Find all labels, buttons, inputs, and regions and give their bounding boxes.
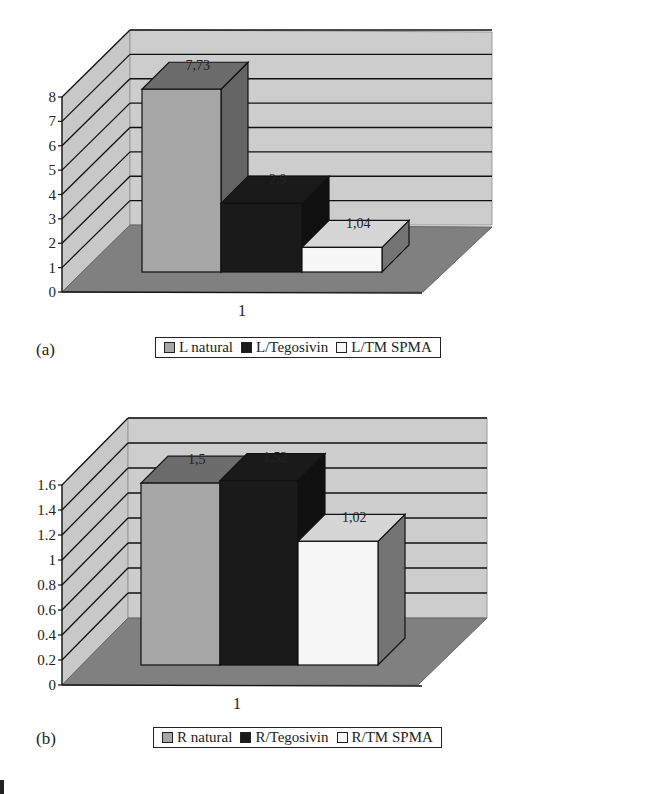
svg-text:1.4: 1.4 (37, 502, 56, 518)
legend-swatch-icon (162, 732, 173, 743)
legend-swatch-icon (241, 342, 252, 353)
legend-label: R/TM SPMA (352, 729, 433, 746)
svg-text:1: 1 (49, 552, 57, 568)
data-label: 7,73 (185, 58, 210, 73)
panel-label-b: (b) (36, 729, 56, 749)
svg-text:0.4: 0.4 (37, 627, 56, 643)
data-label: 2,9 (269, 172, 287, 187)
panel-label-a: (a) (36, 340, 55, 360)
svg-text:0: 0 (49, 677, 57, 693)
svg-text:1.2: 1.2 (37, 527, 56, 543)
svg-text:1: 1 (49, 260, 57, 276)
legend-swatch-icon (240, 732, 251, 743)
legend-item-l-natural: L natural (164, 339, 233, 356)
legend-label: L natural (179, 339, 233, 356)
svg-text:2: 2 (49, 235, 57, 251)
legend-item-l-tegosivin: L/Tegosivin (241, 339, 328, 356)
legend-swatch-icon (337, 732, 348, 743)
chart-panel-a: 7,732,91,04 012345678 1 (a) L natural L/… (0, 0, 652, 380)
svg-text:6: 6 (49, 138, 57, 154)
legend-label: L/TM SPMA (351, 339, 431, 356)
legend-item-r-natural: R natural (162, 729, 232, 746)
svg-text:4: 4 (49, 187, 57, 203)
svg-text:0.6: 0.6 (37, 602, 56, 618)
chart-a-legend: L natural L/Tegosivin L/TM SPMA (155, 337, 441, 358)
svg-text:8: 8 (49, 89, 57, 105)
legend-swatch-icon (336, 342, 347, 353)
svg-text:0.8: 0.8 (37, 577, 56, 593)
legend-label: R natural (177, 729, 232, 746)
bar-r-tm-spma (298, 514, 405, 665)
legend-item-l-tm-spma: L/TM SPMA (336, 339, 431, 356)
svg-text:0: 0 (49, 284, 57, 300)
chart-b-plot: 1,51,521,02 00.20.40.60.811.21.41.6 1 (0, 385, 652, 715)
legend-item-r-tegosivin: R/Tegosivin (240, 729, 328, 746)
data-label: 1,52 (263, 450, 288, 465)
legend-label: L/Tegosivin (256, 339, 328, 356)
svg-text:3: 3 (49, 211, 57, 227)
data-label: 1,04 (346, 216, 371, 231)
legend-label: R/Tegosivin (255, 729, 328, 746)
data-label: 1,5 (188, 452, 206, 467)
svg-text:1.6: 1.6 (37, 477, 56, 493)
svg-text:5: 5 (49, 162, 57, 178)
legend-item-r-tm-spma: R/TM SPMA (337, 729, 433, 746)
chart-a-plot: 7,732,91,04 012345678 1 (0, 0, 652, 330)
svg-text:7: 7 (49, 113, 57, 129)
chart-panel-b: 1,51,521,02 00.20.40.60.811.21.41.6 1 (b… (0, 385, 652, 765)
svg-text:0.2: 0.2 (37, 652, 56, 668)
page-edge-mark (0, 780, 4, 794)
data-label: 1,02 (342, 510, 367, 525)
legend-swatch-icon (164, 342, 175, 353)
chart-b-legend: R natural R/Tegosivin R/TM SPMA (153, 727, 442, 748)
chart-b-x-tick: 1 (233, 695, 241, 712)
chart-a-x-tick: 1 (238, 302, 246, 319)
